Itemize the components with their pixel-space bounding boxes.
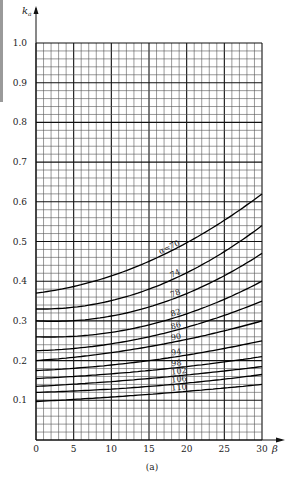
x-axis-title: β — [271, 443, 278, 454]
x-tick-label: 25 — [219, 444, 231, 454]
curve-label: 90 — [170, 332, 182, 343]
x-tick-label: 5 — [71, 444, 77, 454]
y-tick-label: 0.3 — [13, 316, 28, 326]
y-tick-label: 0.1 — [13, 395, 27, 405]
y-tick-label: 0.6 — [13, 197, 28, 207]
y-tick-label: 1.0 — [13, 38, 28, 48]
y-tick-label: 0.8 — [13, 117, 28, 127]
x-tick-label: 20 — [181, 444, 193, 454]
curve-label: 82 — [170, 307, 182, 319]
y-tick-label: 0.2 — [13, 356, 27, 366]
y-axis-title: ka — [22, 5, 32, 17]
y-tick-label: 0.5 — [13, 237, 28, 247]
y-axis-title-subscript: a — [28, 10, 32, 17]
grid — [36, 43, 262, 440]
x-tick-label: 15 — [143, 444, 155, 454]
curve-label: 74 — [169, 267, 182, 279]
x-tick-label: 30 — [256, 444, 268, 454]
y-tick-label: 0.9 — [13, 78, 28, 88]
y-axis-arrow-icon — [34, 6, 39, 14]
chart: 0.10.20.30.40.50.60.70.80.91.00510152025… — [0, 0, 304, 488]
x-tick-label: 10 — [106, 444, 118, 454]
y-tick-label: 0.4 — [13, 276, 28, 286]
y-tick-label: 0.7 — [13, 157, 28, 167]
x-axis-arrow-icon — [276, 438, 285, 443]
curve-label: 110 — [171, 382, 187, 392]
curve-label: 94 — [171, 347, 182, 357]
x-tick-label: 0 — [33, 444, 39, 454]
figure-caption: (a) — [0, 462, 304, 472]
